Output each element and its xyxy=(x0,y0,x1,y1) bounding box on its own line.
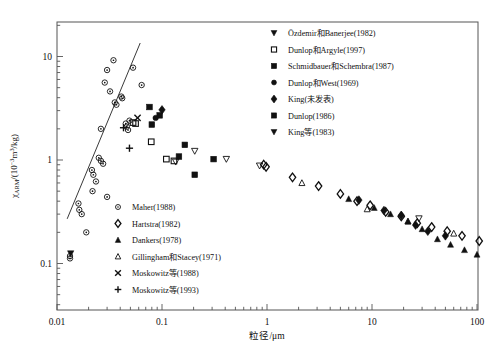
legend-item[interactable]: Schmidbauer和Schembra(1987) xyxy=(271,62,394,71)
legend-item-label: Moskowitz等(1988) xyxy=(132,268,199,278)
legend-item-label: Hartstra(1982) xyxy=(132,220,180,229)
marker-square-filled xyxy=(149,122,155,128)
marker-square-filled xyxy=(271,113,276,118)
marker-circle-filled xyxy=(153,115,158,120)
y-axis-title-sub: ARM xyxy=(13,179,20,194)
x-tick-label: 10 xyxy=(367,317,377,327)
y-tick-label: 10 xyxy=(43,52,53,62)
marker-square-filled xyxy=(176,154,182,160)
marker-square-filled xyxy=(192,172,198,178)
marker-square-filled xyxy=(271,63,276,68)
marker-circle-filled xyxy=(272,80,277,85)
marker-square-filled xyxy=(211,156,217,162)
y-tick-label: 0.1 xyxy=(40,259,52,269)
legend-item-label: Dunlop和Argyle(1997) xyxy=(288,46,365,55)
x-tick-label: 1 xyxy=(265,317,270,327)
legend-item-label: Dunlop和West(1969) xyxy=(288,79,359,88)
x-axis-title: 粒径/μm xyxy=(249,330,285,341)
y-axis-title-tail: /kg) xyxy=(9,134,19,149)
legend-item-label: Özdemir和Banerjee(1982) xyxy=(288,29,376,38)
x-tick-label: 100 xyxy=(470,317,485,327)
figure-background xyxy=(0,0,495,358)
y-axis-title-slash: /(10 xyxy=(9,165,19,180)
x-tick-label: 0.01 xyxy=(49,317,66,327)
legend-item-label: Schmidbauer和Schembra(1987) xyxy=(288,62,394,71)
legend-item-label: Moskowitz等(1993) xyxy=(132,285,199,295)
legend-item-label: King等(1983) xyxy=(288,127,334,137)
legend-item-label: Dunlop(1986) xyxy=(288,112,335,121)
y-tick-label: 1 xyxy=(47,155,52,165)
legend-item-label: Gillingham和Stacey(1971) xyxy=(132,253,221,262)
x-tick-label: 0.1 xyxy=(156,317,168,327)
y-axis-title-m: m xyxy=(9,152,19,159)
marker-square-filled xyxy=(147,104,153,110)
marker-square-filled xyxy=(182,142,188,148)
chart-figure: 0.010.1110100 1010.1 Özdemir和Banerjee(19… xyxy=(0,0,495,358)
legend-item-label: Dankers(1978) xyxy=(132,236,181,245)
legend-item-label: Maher(1988) xyxy=(132,203,175,212)
y-axis-title-exp: −3 xyxy=(8,159,15,166)
legend-item[interactable]: Gillingham和Stacey(1971) xyxy=(115,253,221,262)
scatter-plot-svg: 0.010.1110100 1010.1 Özdemir和Banerjee(19… xyxy=(0,0,495,358)
series-dunlop-west-1969- xyxy=(153,115,158,120)
legend-item-label: King(未发表) xyxy=(288,94,334,104)
